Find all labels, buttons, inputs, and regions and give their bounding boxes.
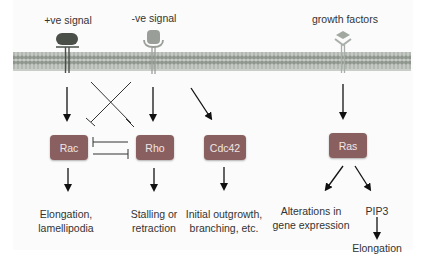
pip3-elongation-label: Elongation [344, 241, 410, 255]
growth-factors-label: growth factors [300, 12, 390, 26]
positive-signal-label: +ve signal [38, 13, 98, 27]
activation-arrows [67, 84, 343, 118]
rac-rho-inhibition [93, 137, 128, 159]
cross-inhibition-lines [86, 82, 134, 127]
cell-membrane [13, 52, 411, 71]
pip3-label: PIP3 [357, 204, 397, 218]
ras-gene-outcome-label: Alterations in gene expression [268, 204, 354, 232]
rac-outcome-label: Elongation, lamellipodia [28, 207, 104, 235]
rho-node: Rho [136, 135, 174, 160]
cdc42-outcome-label: Initial outgrowth, branching, etc. [176, 207, 272, 235]
cdc42-node: Cdc42 [204, 135, 246, 160]
rac-outcome-line2: lamellipodia [28, 221, 104, 235]
rac-outcome-line1: Elongation, [28, 207, 104, 221]
ras-gene-outcome-line1: Alterations in [268, 204, 354, 218]
negative-signal-label: -ve signal [126, 11, 182, 25]
rac-node: Rac [50, 135, 88, 160]
ras-gene-outcome-line2: gene expression [268, 218, 354, 232]
cdc42-outcome-line2: branching, etc. [176, 221, 272, 235]
cdc42-outcome-line1: Initial outgrowth, [176, 207, 272, 221]
ras-node: Ras [329, 133, 367, 158]
